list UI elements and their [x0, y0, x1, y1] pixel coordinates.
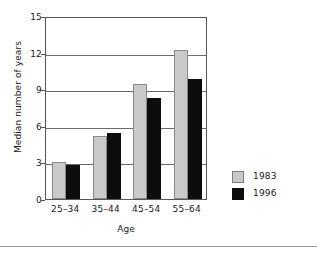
legend-swatch-icon — [232, 188, 244, 200]
y-axis-tick-mark — [41, 200, 45, 201]
bar-1983-55-64 — [174, 50, 188, 199]
legend-label: 1996 — [253, 189, 277, 198]
bar-1996-45-54 — [147, 98, 161, 199]
bar-1983-25-34 — [52, 162, 66, 199]
bar-1996-25-34 — [66, 165, 80, 199]
y-axis-tick-mark — [41, 127, 45, 128]
bottom-divider — [0, 246, 317, 247]
x-axis-title: Age — [45, 224, 207, 234]
y-axis-tick-mark — [41, 90, 45, 91]
bar-chart-figure: 15129630 Median number of years 25–3435–… — [0, 0, 317, 255]
bar-1996-35-44 — [107, 133, 121, 199]
legend-label: 1983 — [253, 172, 277, 181]
chart-legend: 19831996 — [232, 168, 277, 202]
y-axis-tick-mark — [41, 54, 45, 55]
legend-item: 1983 — [232, 168, 277, 185]
legend-swatch-icon — [232, 171, 244, 183]
x-axis-tick-label: 55–64 — [162, 205, 212, 214]
bar-1996-55-64 — [188, 79, 202, 199]
bar-1983-35-44 — [93, 136, 107, 199]
plot-area — [45, 17, 207, 200]
bar-1983-45-54 — [133, 84, 147, 199]
legend-item: 1996 — [232, 185, 277, 202]
y-axis-title: Median number of years — [13, 17, 23, 177]
y-axis-tick-mark — [41, 17, 45, 18]
y-axis-tick-labels: 15129630 — [24, 17, 42, 200]
y-axis-tick-mark — [41, 163, 45, 164]
